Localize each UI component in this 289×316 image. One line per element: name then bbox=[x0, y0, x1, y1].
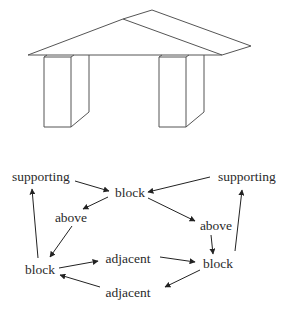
figure: supporting block supporting above above … bbox=[0, 0, 289, 316]
node-block-left: block bbox=[25, 263, 55, 277]
arrow-supporting_r-to-block_top bbox=[148, 177, 210, 192]
arrow-block_l-to-supporting_l bbox=[32, 189, 38, 258]
node-supporting-left: supporting bbox=[12, 170, 70, 184]
arrow-block_r-to-supporting_r bbox=[235, 190, 242, 251]
node-block-right: block bbox=[203, 257, 233, 271]
arrow-adjacent_top-to-block_r bbox=[160, 257, 195, 262]
arrow-block_r-to-adjacent_bottom bbox=[165, 270, 200, 287]
node-above-left: above bbox=[55, 211, 87, 225]
node-above-right: above bbox=[200, 219, 232, 233]
arrow-above_l-to-block_l bbox=[50, 226, 72, 257]
arrow-block_l-to-adjacent_top bbox=[59, 261, 98, 268]
node-supporting-right: supporting bbox=[218, 170, 276, 184]
arrow-block_top-to-above_r bbox=[148, 198, 195, 221]
node-adjacent-bottom: adjacent bbox=[106, 286, 151, 300]
arrow-supporting_l-to-block_top bbox=[75, 181, 109, 191]
node-adjacent-top: adjacent bbox=[106, 252, 151, 266]
node-block-top: block bbox=[115, 186, 145, 200]
arrow-block_top-to-above_l bbox=[83, 197, 108, 209]
figure-caption-clipped bbox=[0, 309, 289, 316]
arrow-above_r-to-block_r bbox=[211, 235, 213, 254]
arrow-adjacent_bottom-to-block_l bbox=[60, 275, 100, 287]
